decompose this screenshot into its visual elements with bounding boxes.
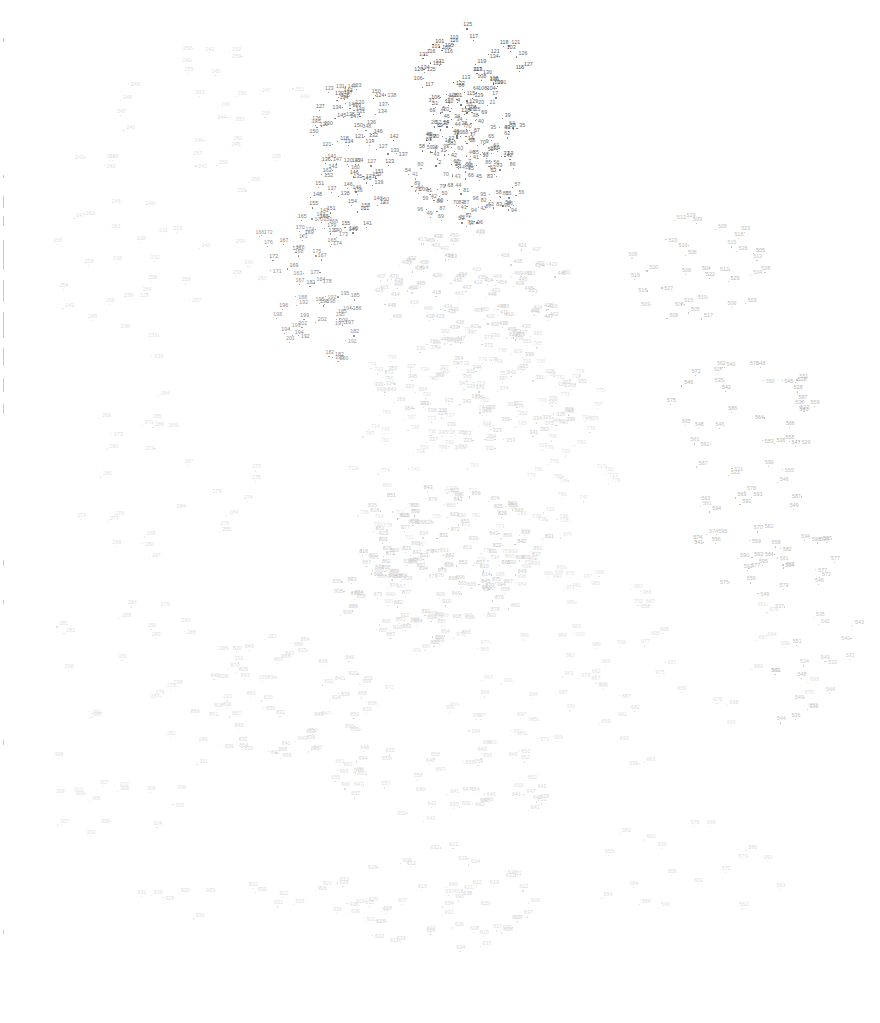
dot-marker [631, 258, 632, 259]
dot-number-label: 512 [720, 267, 729, 272]
dot-number-label: 410 [474, 280, 483, 285]
dot-marker [393, 140, 394, 141]
dot-number-label: 177 [310, 270, 319, 275]
dot-marker [658, 907, 659, 908]
dot-marker [63, 633, 64, 634]
dot-marker [373, 561, 374, 562]
dot-number-label: 714 [371, 424, 380, 429]
dot-marker [496, 742, 497, 743]
dot-number-label: 555 [785, 468, 794, 473]
dot-marker [709, 511, 710, 512]
dot-marker [439, 347, 440, 348]
dot-number-label: 439 [450, 325, 459, 330]
dot-marker [537, 738, 538, 739]
dot-marker [348, 661, 349, 662]
dot-marker [566, 567, 567, 568]
dot-marker [287, 268, 288, 269]
dot-marker [226, 117, 227, 118]
dot-number-label: 981 [573, 583, 582, 588]
dot-number-label: 548 [695, 422, 704, 427]
dot-marker [158, 396, 159, 397]
dot-number-label: 172 [269, 254, 278, 259]
dot-marker [413, 408, 414, 409]
dot-marker [366, 182, 367, 183]
dot-number-label: 895 [388, 574, 397, 579]
dot-marker [155, 638, 156, 639]
dot-number-label: 534 [800, 659, 809, 664]
dot-number-label: 249 [65, 303, 74, 308]
dot-number-label: 255 [272, 154, 281, 159]
dot-marker [581, 579, 582, 580]
dot-number-label: 233 [149, 333, 158, 338]
dot-number-label: 529 [731, 276, 740, 281]
dot-marker [389, 754, 390, 755]
dot-marker [336, 913, 337, 914]
dot-marker [387, 588, 388, 589]
dot-marker [519, 561, 520, 562]
dot-marker [460, 546, 461, 547]
dot-marker [248, 650, 249, 651]
dot-number-label: 69 [438, 214, 444, 219]
dot-number-label: 258 [182, 277, 191, 282]
dot-marker [229, 147, 230, 148]
dot-marker [554, 276, 555, 277]
dot-marker [555, 424, 556, 425]
dot-marker [430, 403, 431, 404]
dot-number-label: 982 [566, 653, 575, 658]
dot-marker [639, 904, 640, 905]
dot-marker [783, 567, 784, 568]
dot-marker [330, 233, 331, 234]
dot-marker [342, 886, 343, 887]
dot-marker [515, 195, 516, 196]
dot-number-label: 989 [544, 571, 553, 576]
dot-number-label: 154 [348, 199, 357, 204]
dot-marker [57, 824, 58, 825]
dot-number-label: 65 [488, 134, 494, 139]
dot-marker [453, 313, 454, 314]
dot-marker [462, 387, 463, 388]
dot-number-label: 752 [556, 375, 565, 380]
dot-number-label: 548 [757, 361, 766, 366]
dot-number-label: 276 [252, 475, 261, 480]
dot-marker [178, 425, 179, 426]
dot-marker [191, 60, 192, 61]
dot-number-label: 241 [75, 155, 84, 160]
dot-marker [510, 876, 511, 877]
dot-number-label: 971 [514, 729, 523, 734]
dot-marker [419, 548, 420, 549]
dot-marker [295, 296, 296, 297]
dot-marker [435, 107, 436, 108]
dot-number-label: 68 [448, 183, 454, 188]
dot-marker [295, 741, 296, 742]
dot-marker [202, 153, 203, 154]
dot-number-label: 828 [219, 674, 228, 679]
dot-number-label: 25 [474, 107, 480, 112]
dot-marker [109, 304, 110, 305]
dot-marker [818, 705, 819, 706]
dot-number-label: 323 [463, 438, 472, 443]
dot-marker [795, 382, 796, 383]
dot-number-label: 655 [450, 802, 459, 807]
dot-number-label: 139 [375, 180, 384, 185]
dot-marker [405, 630, 406, 631]
dot-number-label: 590 [765, 460, 774, 465]
dot-marker [670, 404, 671, 405]
dot-marker [619, 695, 620, 696]
dot-marker [423, 271, 424, 272]
dot-number-label: 258 [251, 177, 260, 182]
dot-number-label: 117 [425, 82, 434, 87]
dot-marker [384, 433, 385, 434]
dot-number-label: 268 [112, 540, 121, 545]
dot-marker [474, 221, 475, 222]
dot-marker [541, 803, 542, 804]
dot-number-label: 885 [402, 624, 411, 629]
dot-marker [440, 309, 441, 310]
dot-marker [120, 100, 121, 101]
dot-marker [192, 48, 193, 49]
dot-number-label: 321 [466, 369, 475, 374]
dot-marker [334, 118, 335, 119]
dot-number-label: 668 [660, 627, 669, 632]
dot-marker [162, 897, 163, 898]
dot-number-label: 965 [480, 647, 489, 652]
dot-marker [500, 196, 501, 197]
